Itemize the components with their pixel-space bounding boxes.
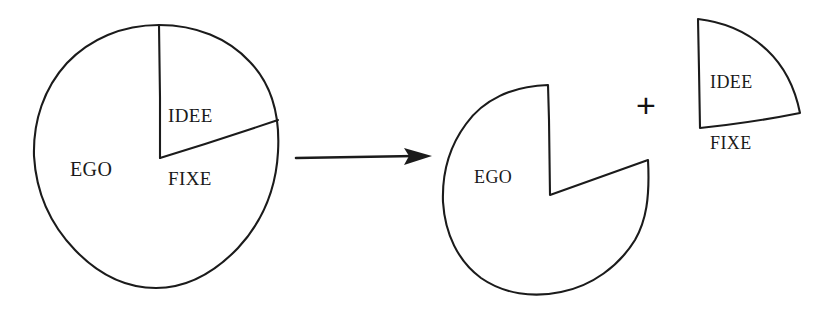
right-pie-notched-outline — [443, 85, 649, 295]
diagram-canvas: EGO IDEE FIXE EGO + IDEE FIXE — [0, 0, 831, 313]
plus-operator-symbol: + — [636, 86, 656, 124]
detached-slice-idee-fixe-line1: IDEE — [710, 72, 753, 92]
right-pie-with-notch-group — [443, 85, 649, 295]
detached-slice-idee-fixe-label: IDEE FIXE — [710, 32, 753, 193]
left-pie-idee-fixe-line1: IDEE — [168, 105, 213, 126]
detached-slice-idee-fixe-line2: FIXE — [710, 133, 753, 153]
left-pie-circle-outline — [34, 25, 278, 288]
left-pie-idee-fixe-line2: FIXE — [168, 168, 213, 189]
left-whole-pie-group — [34, 25, 278, 288]
arrow-shaft — [296, 156, 415, 158]
pie-diagram-graphic — [0, 0, 831, 313]
left-pie-ego-label: EGO — [70, 158, 112, 180]
left-pie-idee-fixe-label: IDEE FIXE — [168, 62, 213, 232]
left-pie-radius-vertical — [159, 25, 160, 158]
transformation-arrow-group — [296, 148, 432, 165]
right-pie-ego-label: EGO — [474, 167, 512, 187]
